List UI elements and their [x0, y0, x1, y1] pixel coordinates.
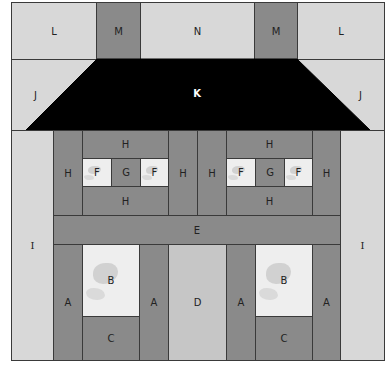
label: I [31, 240, 35, 251]
piece-c-right: C [255, 316, 313, 361]
piece-a-4: A [312, 244, 341, 361]
piece-i-right: I [340, 130, 385, 361]
piece-a-1: A [53, 244, 83, 361]
piece-h-right-top: H [226, 130, 313, 159]
house-block-diagram: L M N M L J J K I I H H F G F H H H H F … [0, 0, 391, 371]
label: A [323, 297, 330, 308]
label: G [266, 167, 274, 178]
label: A [65, 297, 72, 308]
label: E [194, 225, 200, 236]
label: C [108, 333, 115, 344]
piece-f-left-1: F [82, 158, 112, 187]
piece-b-left: B [82, 244, 140, 317]
piece-f-right-2: F [284, 158, 313, 187]
label: F [296, 167, 302, 178]
piece-g-left: G [111, 158, 141, 187]
label: F [94, 167, 100, 178]
piece-f-right-1: F [226, 158, 256, 187]
piece-b-right: B [255, 244, 313, 317]
label: H [122, 196, 130, 207]
label: H [64, 168, 72, 179]
piece-h-center-left: H [168, 130, 198, 216]
label: H [179, 168, 187, 179]
piece-h-left-bottom: H [82, 186, 169, 216]
piece-h-left-outer: H [53, 130, 83, 216]
piece-a-2: A [139, 244, 169, 361]
label: C [281, 333, 288, 344]
label: D [194, 297, 202, 308]
piece-g-right: G [255, 158, 285, 187]
piece-f-left-2: F [140, 158, 169, 187]
piece-c-left: C [82, 316, 140, 361]
label: F [238, 167, 244, 178]
label: B [108, 275, 115, 286]
label: H [323, 168, 331, 179]
label: H [122, 139, 130, 150]
label: A [151, 297, 158, 308]
label: I [361, 240, 365, 251]
piece-h-center-right: H [197, 130, 227, 216]
label: G [122, 167, 130, 178]
label: H [208, 168, 216, 179]
piece-d-door: D [168, 244, 227, 361]
label: H [266, 196, 274, 207]
piece-e: E [53, 215, 341, 245]
label: H [266, 139, 274, 150]
piece-i-left: I [11, 130, 54, 361]
piece-h-left-top: H [82, 130, 169, 159]
label: A [238, 297, 245, 308]
piece-h-right-bottom: H [226, 186, 313, 216]
piece-k-label: K [190, 88, 204, 99]
label: B [281, 275, 288, 286]
piece-a-3: A [226, 244, 256, 361]
piece-h-right-outer: H [312, 130, 341, 216]
label: F [152, 167, 158, 178]
